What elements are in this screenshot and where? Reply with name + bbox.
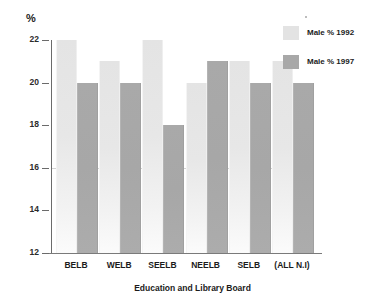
bar-1997 — [120, 83, 141, 253]
y-tick-label: 22 — [30, 34, 39, 44]
bar-1997 — [250, 83, 271, 253]
bar-1997 — [293, 83, 314, 253]
bar-1992 — [56, 40, 77, 253]
bar-group-neelb: NEELB — [186, 40, 226, 253]
legend-item-1992: Male % 1992 — [283, 26, 383, 40]
y-tick-mark — [42, 40, 49, 41]
bar-group-welb: WELB — [99, 40, 139, 253]
y-tick-label: 12 — [30, 247, 39, 257]
y-tick-label: 20 — [30, 77, 39, 87]
legend-label-1992: Male % 1992 — [307, 28, 354, 37]
y-tick-mark — [42, 125, 49, 126]
bar-1992 — [142, 40, 163, 253]
bar-1992 — [186, 83, 207, 253]
x-category-label: (ALL N.I) — [260, 260, 324, 270]
y-tick-label: 18 — [30, 119, 39, 129]
x-axis-line — [44, 253, 322, 254]
bar-group-seelb: SEELB — [142, 40, 182, 253]
bar-group-belb: BELB — [56, 40, 96, 253]
y-tick-mark — [42, 83, 49, 84]
y-tick-label: 14 — [30, 204, 39, 214]
y-tick-mark — [42, 210, 49, 211]
x-axis-title: Education and Library Board — [0, 283, 385, 293]
bar-1997 — [77, 83, 98, 253]
bar-1992 — [99, 61, 120, 253]
legend-item-1997: Male % 1997 — [283, 55, 383, 69]
legend-label-1997: Male % 1997 — [307, 57, 354, 66]
bar-1997 — [163, 125, 184, 253]
legend-swatch-1997 — [283, 55, 299, 69]
y-tick-mark — [42, 253, 49, 254]
legend: Male % 1992 Male % 1997 — [283, 26, 383, 84]
bar-1997 — [207, 61, 228, 253]
bar-1992 — [229, 61, 250, 253]
y-tick-label: 16 — [30, 162, 39, 172]
bar-group-selb: SELB — [229, 40, 269, 253]
y-axis-unit-label: % — [26, 12, 36, 24]
bar-1992 — [272, 61, 293, 253]
stray-speck-icon — [305, 16, 307, 18]
y-tick-mark — [42, 168, 49, 169]
plot-area: BELBWELBSEELBNEELBSELB(ALL N.I) — [52, 40, 312, 253]
legend-swatch-1992 — [283, 26, 299, 40]
bar-chart: % 121416182022 BELBWELBSEELBNEELBSELB(AL… — [0, 0, 385, 305]
